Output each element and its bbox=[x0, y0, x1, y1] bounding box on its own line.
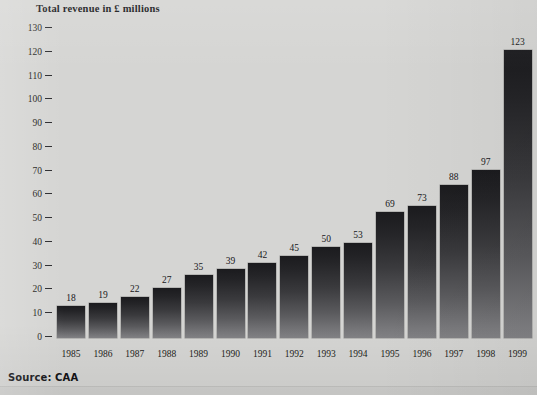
bar bbox=[280, 256, 308, 338]
plot-area: 1301201101009080706050403020100181985191… bbox=[0, 0, 537, 395]
bar bbox=[217, 269, 245, 338]
y-axis-tick-label: 70 bbox=[33, 166, 43, 176]
bar bbox=[312, 247, 340, 338]
y-axis-tick-mark bbox=[45, 193, 52, 194]
y-axis-tick-mark bbox=[45, 241, 52, 242]
bar bbox=[472, 170, 500, 338]
bar bbox=[185, 275, 213, 338]
y-axis-tick: 0 bbox=[0, 332, 52, 344]
y-axis-tick-label: 0 bbox=[37, 332, 42, 342]
y-axis-tick: 90 bbox=[0, 118, 52, 130]
y-axis-tick-label: 130 bbox=[28, 23, 42, 33]
y-axis-tick-mark bbox=[45, 217, 52, 218]
y-axis-tick-mark bbox=[45, 146, 52, 147]
y-axis-tick-mark bbox=[45, 27, 52, 28]
y-axis-tick: 70 bbox=[0, 166, 52, 178]
source-note: Source: CAA bbox=[8, 372, 78, 383]
bar bbox=[344, 243, 372, 338]
y-axis-tick-mark bbox=[45, 75, 52, 76]
y-axis-tick: 80 bbox=[0, 142, 52, 154]
bar-value-label: 53 bbox=[338, 230, 378, 240]
y-axis-tick: 10 bbox=[0, 308, 52, 320]
y-axis-tick-label: 60 bbox=[33, 189, 43, 199]
y-axis-tick-mark bbox=[45, 336, 52, 337]
chart-figure: Total revenue in £ millions 130120110100… bbox=[0, 0, 537, 395]
y-axis-tick-label: 90 bbox=[33, 118, 43, 128]
bar bbox=[153, 288, 181, 338]
bar bbox=[440, 185, 468, 338]
y-axis-tick-mark bbox=[45, 312, 52, 313]
y-axis-tick: 40 bbox=[0, 237, 52, 249]
y-axis-tick-label: 40 bbox=[33, 237, 43, 247]
bar-value-label: 27 bbox=[147, 275, 187, 285]
bar-value-label: 88 bbox=[434, 172, 474, 182]
y-axis-tick-mark bbox=[45, 288, 52, 289]
bar bbox=[376, 212, 404, 338]
bar bbox=[248, 263, 276, 338]
bar-value-label: 73 bbox=[402, 193, 442, 203]
y-axis-tick-label: 110 bbox=[28, 71, 42, 81]
y-axis-tick: 110 bbox=[0, 71, 52, 83]
y-axis-tick-mark bbox=[45, 51, 52, 52]
bar bbox=[89, 303, 117, 338]
bar-value-label: 45 bbox=[274, 243, 314, 253]
bar bbox=[408, 206, 436, 338]
y-axis-tick: 60 bbox=[0, 189, 52, 201]
bar bbox=[121, 297, 149, 338]
chart-title: Total revenue in £ millions bbox=[36, 3, 160, 14]
y-axis-tick: 130 bbox=[0, 23, 52, 35]
y-axis-tick: 100 bbox=[0, 94, 52, 106]
y-axis-tick-mark bbox=[45, 170, 52, 171]
y-axis-tick-mark bbox=[45, 98, 52, 99]
y-axis-tick-label: 30 bbox=[33, 261, 43, 271]
y-axis-tick-label: 120 bbox=[28, 47, 42, 57]
bar bbox=[57, 306, 85, 338]
y-axis-tick-label: 50 bbox=[33, 213, 43, 223]
y-axis-tick: 50 bbox=[0, 213, 52, 225]
bar-value-label: 97 bbox=[466, 157, 506, 167]
y-axis-tick-label: 10 bbox=[33, 308, 43, 318]
y-axis-tick: 120 bbox=[0, 47, 52, 59]
y-axis-tick-label: 80 bbox=[33, 142, 43, 152]
y-axis-tick-label: 100 bbox=[28, 94, 42, 104]
y-axis-tick-label: 20 bbox=[33, 284, 43, 294]
y-axis-tick: 20 bbox=[0, 284, 52, 296]
y-axis-tick-mark bbox=[45, 122, 52, 123]
bar-value-label: 22 bbox=[115, 284, 155, 294]
bar bbox=[504, 50, 532, 338]
bar-value-label: 123 bbox=[498, 37, 537, 47]
y-axis-tick: 30 bbox=[0, 261, 52, 273]
x-axis-tick-label: 1999 bbox=[498, 349, 537, 359]
y-axis-tick-mark bbox=[45, 265, 52, 266]
